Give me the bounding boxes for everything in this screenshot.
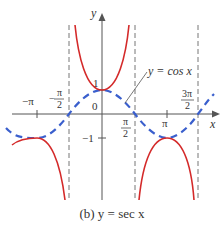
origin-label: 0	[92, 100, 98, 112]
cos-annotation: y = cos x	[147, 64, 192, 78]
sec-cos-graph: y x −π π − 2 π 2 π 3π 2 1 −1 0 y = cos x	[0, 0, 224, 230]
tick-label-pi-2-num: π	[123, 116, 128, 127]
tick-label-yneg1: −1	[82, 132, 94, 144]
y-axis-label: y	[90, 6, 97, 20]
x-axis-label: x	[209, 117, 216, 131]
tick-label-y1: 1	[93, 77, 99, 89]
tick-label-neg-pi-2-minus: −	[49, 93, 55, 104]
tick-label-3pi-2-num: 3π	[182, 88, 192, 99]
cos-annotation-leader	[125, 72, 147, 103]
sec-branch-left	[12, 138, 65, 200]
tick-label-pi-2-den: 2	[123, 128, 128, 139]
y-axis-arrow-icon	[99, 13, 106, 21]
tick-label-neg-pi-2-num: π	[57, 87, 62, 98]
figure-caption: (b) y = sec x	[0, 206, 224, 222]
tick-label-pi: π	[162, 117, 168, 129]
sec-branch-right	[139, 138, 194, 200]
tick-label-3pi-2-den: 2	[185, 100, 190, 111]
tick-label-neg-pi-2-den: 2	[57, 99, 62, 110]
tick-label-neg-pi: −π	[22, 95, 34, 107]
